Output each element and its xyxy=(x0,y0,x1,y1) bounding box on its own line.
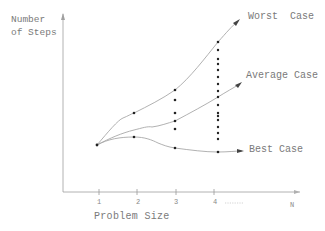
y-axis-arrow-icon xyxy=(61,13,65,20)
average-case-label: Average Case xyxy=(246,71,318,81)
x-axis-arrow-icon xyxy=(294,190,300,194)
best-case-label: Best Case xyxy=(249,145,303,155)
data-point xyxy=(217,104,219,106)
y-axis-label-line1: Number xyxy=(11,14,45,25)
x-axis-label: Problem Size xyxy=(94,212,170,222)
best-case-arrow-icon xyxy=(237,149,244,153)
algorithm-complexity-diagram: Numberof Steps Worst Case Average Case B… xyxy=(0,0,325,231)
x-tick-label-4: 4 xyxy=(213,199,217,206)
worst-case-label: Worst Case xyxy=(248,12,314,22)
data-point xyxy=(217,58,219,60)
x-tick-label-n: N xyxy=(290,202,294,209)
x-tick-label-2: 2 xyxy=(136,199,140,206)
data-point xyxy=(217,90,219,92)
y-axis-label: Numberof Steps xyxy=(11,13,57,39)
data-point xyxy=(217,151,220,154)
data-point xyxy=(217,119,219,121)
data-point xyxy=(217,132,219,134)
data-point xyxy=(174,147,177,150)
data-point xyxy=(217,83,219,85)
y-axis xyxy=(61,13,65,192)
average-case-arrow-icon xyxy=(235,82,242,88)
data-point xyxy=(174,120,177,123)
data-point xyxy=(174,89,177,92)
best-case-curve xyxy=(97,137,244,153)
data-point xyxy=(174,99,177,102)
data-point xyxy=(217,76,219,78)
y-axis-label-line2: of Steps xyxy=(11,27,57,38)
data-point xyxy=(133,112,136,115)
data-point xyxy=(217,41,220,44)
data-point xyxy=(174,128,177,131)
data-point xyxy=(217,115,219,117)
data-point xyxy=(217,138,219,140)
data-point xyxy=(217,49,219,51)
data-point xyxy=(174,112,177,115)
x-tick-label-1: 1 xyxy=(97,199,101,206)
data-point xyxy=(217,112,219,114)
average-case-curve xyxy=(97,82,242,145)
data-point xyxy=(217,69,219,71)
data-point xyxy=(217,63,219,65)
data-point xyxy=(96,144,99,147)
data-point xyxy=(217,126,219,128)
x-tick-label-3: 3 xyxy=(174,199,178,206)
data-point xyxy=(133,136,136,139)
data-point xyxy=(217,96,219,98)
